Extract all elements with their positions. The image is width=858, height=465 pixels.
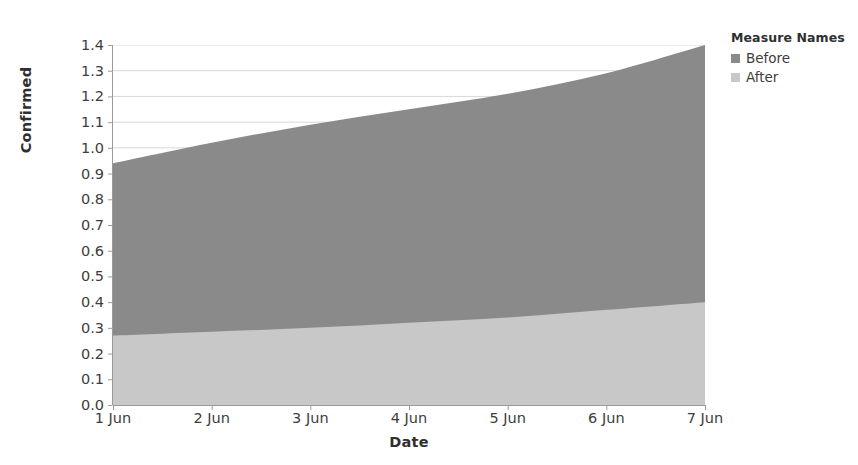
y-axis-title: Confirmed — [18, 30, 38, 190]
x-tick-label: 1 Jun — [95, 410, 132, 426]
legend: Measure Names BeforeAfter — [731, 30, 851, 88]
y-tick-label: 0.2 — [64, 346, 104, 361]
legend-item-label: After — [746, 71, 778, 85]
x-tick-label: 2 Jun — [193, 410, 230, 426]
y-tick-label: 0.6 — [64, 243, 104, 258]
plot-svg — [113, 45, 705, 405]
legend-item-label: Before — [746, 52, 790, 66]
y-tick-label: 0.1 — [64, 372, 104, 387]
y-tick-label: 1.1 — [64, 115, 104, 130]
y-tick-label: 1.4 — [64, 38, 104, 53]
y-tick-label: 1.3 — [64, 63, 104, 78]
legend-swatch-icon — [731, 73, 740, 82]
x-tick-label: 4 Jun — [391, 410, 428, 426]
y-tick-label: 0.4 — [64, 295, 104, 310]
x-axis-tick-labels: 1 Jun2 Jun3 Jun4 Jun5 Jun6 Jun7 Jun — [113, 410, 705, 432]
y-axis-tick-labels: 1.41.31.21.11.00.90.80.70.60.50.40.30.20… — [56, 0, 104, 465]
y-tick-label: 0.5 — [64, 269, 104, 284]
legend-item-after[interactable]: After — [731, 69, 851, 86]
legend-swatch-icon — [731, 54, 740, 63]
y-tick-label: 1.0 — [64, 141, 104, 156]
stacked-area-chart: Confirmed 1.41.31.21.11.00.90.80.70.60.5… — [0, 0, 858, 465]
x-tick-label: 5 Jun — [489, 410, 526, 426]
y-tick-label: 0.7 — [64, 218, 104, 233]
plot-area — [113, 45, 705, 405]
x-tick-label: 7 Jun — [687, 410, 724, 426]
y-tick-label: 0.8 — [64, 192, 104, 207]
legend-title: Measure Names — [731, 30, 851, 45]
y-tick-label: 0.3 — [64, 321, 104, 336]
legend-items: BeforeAfter — [731, 50, 851, 86]
x-tick-label: 6 Jun — [588, 410, 625, 426]
x-tick-label: 3 Jun — [292, 410, 329, 426]
x-axis-title: Date — [113, 434, 705, 450]
legend-item-before[interactable]: Before — [731, 50, 851, 67]
y-tick-label: 0.9 — [64, 166, 104, 181]
y-tick-label: 1.2 — [64, 89, 104, 104]
